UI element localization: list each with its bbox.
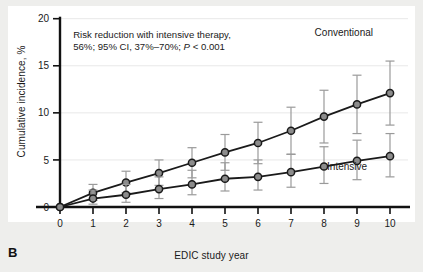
y-tick-label: 0 xyxy=(43,202,49,213)
data-point xyxy=(155,186,162,193)
data-point xyxy=(188,159,195,166)
data-point xyxy=(56,203,63,210)
x-tick-label: 5 xyxy=(222,218,228,229)
y-tick-label: 15 xyxy=(38,60,50,71)
data-point xyxy=(254,139,261,146)
data-point xyxy=(221,175,228,182)
panel-label: B xyxy=(8,245,17,260)
cumulative-incidence-chart: 05101520012345678910ConventionalIntensiv… xyxy=(0,0,423,272)
annotation-line-2: 56%; 95% CI, 37%–70%; P < 0.001 xyxy=(73,41,225,52)
annotation-line-1: Risk reduction with intensive therapy, xyxy=(73,29,231,40)
data-point xyxy=(89,195,96,202)
x-tick-label: 1 xyxy=(90,218,96,229)
data-point xyxy=(254,173,261,180)
data-point xyxy=(188,181,195,188)
x-tick-label: 9 xyxy=(354,218,360,229)
x-tick-label: 10 xyxy=(384,218,396,229)
y-axis-title: Cumulative incidence, % xyxy=(16,37,27,167)
y-tick-label: 5 xyxy=(43,155,49,166)
data-point xyxy=(155,170,162,177)
figure-panel-b: 05101520012345678910ConventionalIntensiv… xyxy=(0,0,423,272)
series-label-conventional: Conventional xyxy=(315,27,373,38)
x-tick-label: 6 xyxy=(255,218,261,229)
series-label-intensive: Intensive xyxy=(327,161,367,172)
data-point xyxy=(386,153,393,160)
data-point xyxy=(287,169,294,176)
y-tick-label: 10 xyxy=(38,107,50,118)
data-point xyxy=(386,89,393,96)
data-point xyxy=(353,101,360,108)
data-point xyxy=(221,149,228,156)
x-tick-label: 7 xyxy=(288,218,294,229)
x-tick-label: 8 xyxy=(321,218,327,229)
x-tick-label: 4 xyxy=(189,218,195,229)
y-tick-label: 20 xyxy=(38,13,50,24)
data-point xyxy=(122,191,129,198)
x-tick-label: 0 xyxy=(57,218,63,229)
x-tick-label: 2 xyxy=(123,218,129,229)
x-tick-label: 3 xyxy=(156,218,162,229)
x-axis-title: EDIC study year xyxy=(0,250,423,261)
data-point xyxy=(320,113,327,120)
data-point xyxy=(287,127,294,134)
